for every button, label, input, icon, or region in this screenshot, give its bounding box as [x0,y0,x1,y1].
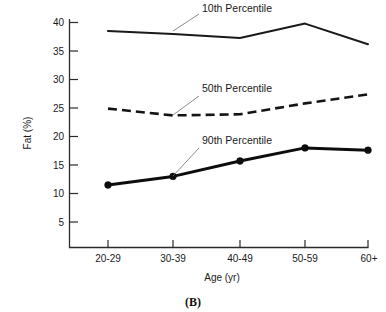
annotation-10th-percentile: 10th Percentile [173,2,272,31]
y-ticklabel-40: 40 [53,17,65,28]
series-line-90th-percentile [108,148,368,185]
y-ticklabel-25: 25 [53,103,65,114]
x-ticklabel-40-49: 40-49 [227,253,253,264]
x-ticklabel-50-59: 50-59 [292,253,318,264]
annotation-label-10th-percentile: 10th Percentile [202,2,272,14]
series-markers-90th-percentile [105,145,372,189]
series-line-50th-percentile [108,94,368,115]
x-ticklabel-30-39: 30-39 [160,253,186,264]
data-point-marker [105,182,112,189]
x-ticklabel-60-plus: 60+ [361,253,378,264]
y-ticklabel-10: 10 [53,188,65,199]
y-ticklabel-20: 20 [53,131,65,142]
leader-line-50th-percentile [173,96,199,115]
panel-caption: (B) [185,295,201,309]
annotation-90th-percentile: 90th Percentile [173,134,272,176]
y-ticklabel-35: 35 [53,46,65,57]
y-ticklabel-5: 5 [58,217,64,228]
annotation-label-50th-percentile: 50th Percentile [202,82,272,94]
fat-vs-age-line-chart: 40 35 30 25 20 15 10 5 20-29 30-39 40-49… [0,0,386,312]
y-ticklabel-30: 30 [53,74,65,85]
leader-line-10th-percentile [173,14,199,31]
y-axis-title: Fat (%) [22,117,33,150]
series-line-10th-percentile [108,24,368,45]
data-point-marker [302,145,309,152]
annotation-50th-percentile: 50th Percentile [173,82,272,115]
chart-figure: 40 35 30 25 20 15 10 5 20-29 30-39 40-49… [0,0,386,312]
data-point-marker [237,158,244,165]
annotation-label-90th-percentile: 90th Percentile [202,134,272,146]
x-axis-ticks: 20-29 30-39 40-49 50-59 60+ [95,240,377,264]
x-axis-title: Age (yr) [204,272,240,283]
data-point-marker [365,147,372,154]
y-ticklabel-15: 15 [53,160,65,171]
y-axis-ticks: 40 35 30 25 20 15 10 5 [53,17,78,228]
x-ticklabel-20-29: 20-29 [95,253,121,264]
